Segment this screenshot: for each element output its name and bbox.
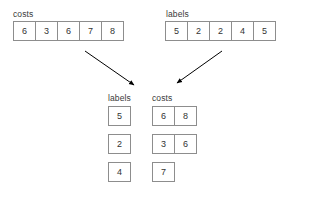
output-labels-cell-0: 5	[108, 106, 131, 126]
input-costs-cell-1: 3	[35, 21, 58, 41]
input-costs-array: 63678	[13, 21, 124, 41]
output-costs-cell-1-0: 3	[152, 134, 175, 154]
output-labels-row-0: 5	[108, 106, 131, 126]
output-labels-label: labels	[108, 93, 131, 103]
output-costs-cell-0-1: 8	[174, 106, 197, 126]
output-costs-row-2: 7	[152, 162, 197, 182]
output-costs-rows: 68367	[152, 106, 197, 190]
input-labels-cell-1: 2	[187, 21, 210, 41]
output-labels-row-1: 2	[108, 134, 131, 154]
output-labels-cell-1: 2	[108, 134, 131, 154]
input-labels-label: labels	[166, 9, 189, 19]
output-costs-cell-1-1: 6	[174, 134, 197, 154]
array-grouping-diagram: costs 63678 labels 52245 labels 524 cost…	[0, 0, 313, 200]
input-costs-cell-4: 8	[101, 21, 124, 41]
output-labels-cell-2: 4	[108, 162, 131, 182]
output-costs-row-1: 36	[152, 134, 197, 154]
input-labels-cell-0: 5	[165, 21, 188, 41]
input-costs-cell-0: 6	[13, 21, 36, 41]
output-labels-column: 524	[108, 106, 131, 190]
output-labels-row-2: 4	[108, 162, 131, 182]
output-costs-label: costs	[152, 93, 172, 103]
input-labels-cell-2: 2	[209, 21, 232, 41]
output-costs-cell-2-0: 7	[152, 162, 175, 182]
input-labels-array: 52245	[165, 21, 276, 41]
input-labels-cell-4: 5	[253, 21, 276, 41]
output-costs-row-0: 68	[152, 106, 197, 126]
input-costs-label: costs	[13, 9, 33, 19]
input-labels-cell-3: 4	[231, 21, 254, 41]
arrow-labels-to-grouped	[177, 51, 222, 83]
input-costs-cell-2: 6	[57, 21, 80, 41]
arrow-costs-to-grouped	[85, 51, 134, 85]
input-costs-cell-3: 7	[79, 21, 102, 41]
output-costs-cell-0-0: 6	[152, 106, 175, 126]
